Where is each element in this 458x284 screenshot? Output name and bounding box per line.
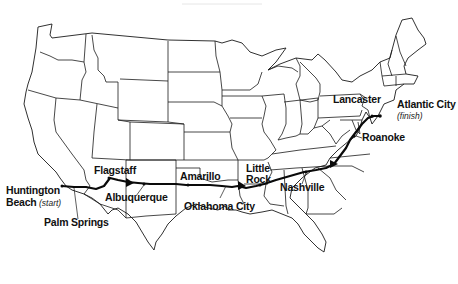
label-oklahoma-city: Oklahoma City [184, 200, 255, 212]
label-palm-springs: Palm Springs [44, 216, 109, 228]
label-atlantic-city: Atlantic City [397, 98, 456, 110]
nc-sc-border [330, 166, 364, 172]
label-flagstaff: Flagstaff [94, 164, 137, 176]
stop-marker [371, 115, 374, 118]
label-finish-note: (finish) [397, 111, 423, 121]
label-huntington-beach-2: Beach [6, 196, 37, 208]
stop-marker [353, 135, 356, 138]
label-nashville: Nashville [280, 181, 325, 193]
label-roanoke: Roanoke [362, 131, 405, 143]
label-lancaster: Lancaster [333, 93, 381, 105]
us-route-map: Huntington Beach (start) Palm Springs Fl… [0, 0, 458, 284]
label-little-rock-2: Rock [246, 173, 271, 185]
label-huntington-beach: Huntington [6, 184, 60, 196]
ga-fl-border [306, 208, 342, 214]
label-amarillo: Amarillo [180, 170, 220, 182]
stop-marker [61, 185, 64, 188]
label-start-note: (start) [39, 198, 61, 208]
stop-marker [378, 114, 382, 118]
va-nc-border [330, 154, 370, 158]
leader-palm-springs [74, 188, 78, 219]
stop-marker [187, 184, 190, 187]
stop-marker [108, 177, 111, 180]
label-albuquerque: Albuquerque [105, 191, 168, 203]
